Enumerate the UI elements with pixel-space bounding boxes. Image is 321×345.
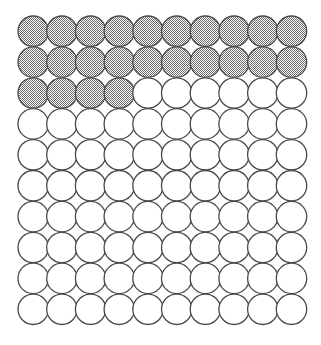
circle-empty [276, 78, 306, 108]
circle-empty [219, 109, 249, 139]
circle-empty [276, 263, 306, 293]
circle-filled [276, 16, 306, 46]
circle-empty [104, 294, 134, 324]
circle-empty [75, 171, 105, 201]
circle-empty [248, 263, 278, 293]
circle-empty [190, 294, 220, 324]
circle-filled [162, 47, 192, 77]
circle-empty [133, 232, 163, 262]
circle-empty [248, 109, 278, 139]
circle-empty [104, 232, 134, 262]
circle-empty [219, 232, 249, 262]
figure-root [0, 0, 321, 345]
circle-empty [190, 201, 220, 231]
circle-empty [133, 109, 163, 139]
circle-filled [104, 78, 134, 108]
circle-empty [248, 78, 278, 108]
circle-empty [219, 201, 249, 231]
circle-empty [248, 201, 278, 231]
circle-empty [162, 263, 192, 293]
circle-filled [133, 47, 163, 77]
circle-empty [276, 294, 306, 324]
circle-empty [276, 140, 306, 170]
circle-filled [248, 47, 278, 77]
circle-filled [18, 16, 48, 46]
circle-empty [47, 109, 77, 139]
circle-empty [104, 140, 134, 170]
circle-empty [133, 78, 163, 108]
circle-empty [18, 201, 48, 231]
circle-empty [162, 140, 192, 170]
circle-empty [47, 201, 77, 231]
circle-empty [219, 263, 249, 293]
circle-filled [75, 78, 105, 108]
circle-grid [0, 0, 321, 345]
circle-empty [18, 263, 48, 293]
circle-empty [75, 232, 105, 262]
circle-empty [18, 232, 48, 262]
circle-empty [190, 263, 220, 293]
circle-empty [18, 109, 48, 139]
circle-empty [75, 109, 105, 139]
circle-empty [248, 232, 278, 262]
circle-empty [75, 201, 105, 231]
circle-filled [75, 47, 105, 77]
circle-empty [133, 263, 163, 293]
circle-empty [190, 109, 220, 139]
circle-empty [190, 140, 220, 170]
circle-filled [47, 16, 77, 46]
circle-filled [162, 16, 192, 46]
circle-filled [75, 16, 105, 46]
circle-filled [190, 47, 220, 77]
circle-empty [219, 294, 249, 324]
circle-empty [219, 171, 249, 201]
circle-empty [104, 109, 134, 139]
circle-empty [104, 263, 134, 293]
circle-filled [219, 47, 249, 77]
circle-empty [162, 109, 192, 139]
circle-filled [190, 16, 220, 46]
circle-empty [276, 171, 306, 201]
circle-empty [18, 171, 48, 201]
circle-empty [190, 232, 220, 262]
circle-empty [18, 140, 48, 170]
circle-empty [248, 294, 278, 324]
circle-empty [276, 109, 306, 139]
circle-empty [47, 232, 77, 262]
circle-empty [162, 171, 192, 201]
circle-filled [18, 47, 48, 77]
circle-empty [47, 171, 77, 201]
circle-empty [47, 294, 77, 324]
circle-empty [47, 263, 77, 293]
circle-empty [162, 232, 192, 262]
circle-empty [162, 78, 192, 108]
circle-empty [190, 78, 220, 108]
circle-empty [75, 294, 105, 324]
circle-empty [162, 294, 192, 324]
circle-filled [133, 16, 163, 46]
circle-empty [219, 78, 249, 108]
circle-empty [162, 201, 192, 231]
circle-empty [133, 140, 163, 170]
circle-empty [133, 171, 163, 201]
circle-empty [75, 140, 105, 170]
circle-empty [18, 294, 48, 324]
circle-filled [18, 78, 48, 108]
circle-empty [248, 171, 278, 201]
circle-empty [47, 140, 77, 170]
circle-filled [104, 47, 134, 77]
circle-empty [133, 201, 163, 231]
circle-filled [47, 78, 77, 108]
circle-empty [248, 140, 278, 170]
circle-empty [75, 263, 105, 293]
circle-empty [190, 171, 220, 201]
circle-filled [219, 16, 249, 46]
circle-empty [104, 171, 134, 201]
circle-empty [104, 201, 134, 231]
circle-filled [248, 16, 278, 46]
circle-empty [276, 201, 306, 231]
circle-filled [276, 47, 306, 77]
circle-filled [104, 16, 134, 46]
circle-empty [219, 140, 249, 170]
circle-empty [276, 232, 306, 262]
